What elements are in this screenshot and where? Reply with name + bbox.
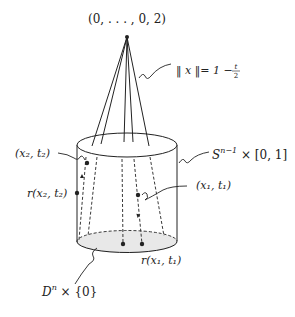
- apex-point: [125, 35, 129, 39]
- disk-label: Dn × {0}: [41, 283, 97, 299]
- norm-frac-den: 2: [234, 72, 238, 80]
- arrowheads: [80, 174, 140, 218]
- bottom-disk: [77, 230, 178, 253]
- norm-label-main: ‖ x ‖= 1 −: [176, 64, 233, 78]
- point-bottom-1: [121, 242, 125, 246]
- norm-label: ‖ x ‖= 1 −: [176, 64, 233, 78]
- cylinder-label: Sn−1 × [0, 1]: [212, 146, 287, 162]
- cylinder-cone-diagram: (0, . . . , 0, 2) ‖ x ‖= 1 − t 2 Sn−1 × …: [0, 0, 295, 317]
- cylinder-sides: [77, 145, 177, 242]
- x2t2-label: (x₂, t₂): [15, 147, 50, 160]
- point-x2t2: [85, 161, 89, 165]
- cone-lines: [92, 37, 149, 146]
- r-x2t2-label: r(x₂, t₂): [27, 187, 67, 200]
- apex-label: (0, . . . , 0, 2): [88, 12, 166, 26]
- r-x1t1-label: r(x₁, t₁): [141, 254, 181, 267]
- norm-frac-num: t: [235, 63, 238, 71]
- point-x1t1: [136, 193, 140, 197]
- point-r-x2t2: [75, 191, 79, 195]
- point-r-x1t1: [140, 242, 144, 246]
- x1t1-label: (x₁, t₁): [196, 179, 231, 192]
